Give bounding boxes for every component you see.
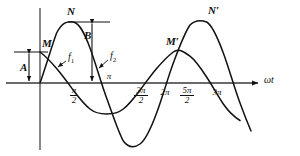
- curve-label-f2-sub: 2: [113, 56, 117, 64]
- x-tick-3pi-over-2-num: 3π: [134, 86, 147, 95]
- point-label-N-prime: N′: [208, 5, 219, 16]
- x-tick-2pi: 2π: [156, 88, 174, 97]
- x-tick-pi: π: [102, 72, 116, 81]
- x-tick-3pi-over-2-den: 2: [134, 95, 147, 105]
- x-tick-5pi-over-2-den: 2: [180, 95, 193, 105]
- x-tick-5pi-over-2: 5π 2: [176, 86, 198, 106]
- x-tick-pi-over-2: π 2: [65, 86, 83, 106]
- x-tick-3pi: 3π: [208, 88, 226, 97]
- dimension-label-A: A: [20, 62, 27, 73]
- curve-label-f1: f1: [68, 52, 74, 65]
- callout-leader-f2: [99, 60, 108, 68]
- x-tick-pi-over-2-den: 2: [70, 95, 79, 105]
- point-label-M: M: [42, 38, 52, 49]
- x-tick-5pi-over-2-num: 5π: [180, 86, 193, 95]
- curve-label-f1-sub: 1: [71, 57, 75, 65]
- x-tick-pi-over-2-num: π: [70, 86, 79, 95]
- curve-label-f2: f2: [110, 51, 116, 64]
- x-axis-label: ωt: [264, 75, 274, 85]
- waveform-figure: M N M′ N′ A B f1 f2 π 2 π 3π 2 2π 5π 2 3…: [0, 0, 300, 156]
- dimension-label-B: B: [84, 30, 91, 41]
- callout-leader-f1: [58, 61, 66, 67]
- point-label-N: N: [67, 6, 75, 17]
- x-tick-3pi-over-2: 3π 2: [130, 86, 152, 106]
- plot-canvas: [0, 0, 300, 156]
- point-label-M-prime: M′: [166, 36, 179, 47]
